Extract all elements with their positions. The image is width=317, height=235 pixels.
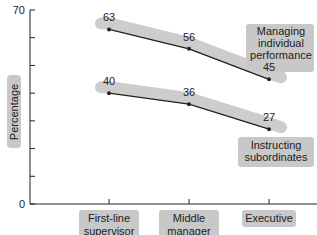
x-category-label: supervisor	[84, 225, 135, 235]
x-category-label: Executive	[245, 212, 293, 224]
data-point	[187, 102, 191, 106]
data-value-label: 27	[263, 111, 275, 123]
data-point	[107, 27, 111, 31]
series-label: Instructing	[251, 139, 302, 151]
series-label: Managing	[257, 25, 305, 37]
series-label: individual	[258, 37, 304, 49]
data-value-label: 36	[183, 86, 195, 98]
y-axis-label: Percentage	[8, 84, 20, 140]
x-category-label: manager	[167, 225, 211, 235]
x-category-label: First-line	[88, 212, 130, 224]
data-value-label: 40	[103, 75, 115, 87]
line-chart: 700 PercentageFirst-linesupervisorMiddle…	[0, 0, 317, 235]
data-value-label: 56	[183, 31, 195, 43]
series-label: performance	[250, 49, 312, 61]
series-label: subordinates	[245, 151, 308, 163]
y-tick-label: 0	[19, 198, 25, 210]
data-point	[187, 47, 191, 51]
data-point	[267, 127, 271, 131]
x-category-label: Middle	[173, 212, 205, 224]
data-value-label: 45	[263, 61, 275, 73]
y-tick-label: 70	[13, 4, 25, 16]
data-point	[267, 77, 271, 81]
data-point	[107, 91, 111, 95]
data-value-label: 63	[103, 11, 115, 23]
